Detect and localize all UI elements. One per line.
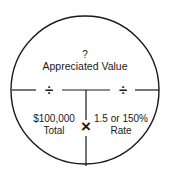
rate-value: 1.5 or 150%	[91, 113, 151, 124]
rate-label: Rate	[91, 125, 151, 136]
unknown-symbol: ?	[75, 49, 95, 60]
total-value: $100,000	[27, 113, 81, 124]
formula-circle-diagram	[0, 0, 169, 179]
total-label: Total	[27, 125, 81, 136]
appreciated-value-label: Appreciated Value	[30, 61, 140, 72]
divide-right-operator: ÷	[113, 82, 133, 98]
divide-left-operator: ÷	[39, 82, 59, 98]
